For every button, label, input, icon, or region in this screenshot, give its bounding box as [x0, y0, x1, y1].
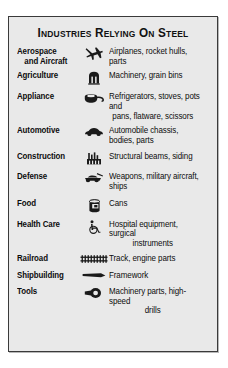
industry-name-line1: Tools — [17, 286, 37, 296]
list-item: Agriculture Machinery, grain bins — [17, 71, 211, 85]
can-icon — [79, 199, 109, 213]
industry-name: Tools — [17, 287, 74, 297]
industry-products-line2: instruments — [109, 239, 204, 249]
i-beam-icon — [79, 271, 109, 280]
industry-products: Machinery, grain bins — [109, 71, 204, 81]
airplane-icon — [79, 47, 109, 61]
industry-name-line1: Defense — [17, 171, 47, 181]
industry-name: Shipbuilding — [17, 271, 74, 281]
industry-products: Automobile chassis, bodies, parts — [109, 126, 204, 145]
list-item: Appliance Refrigerators, stoves, pots an… — [17, 92, 211, 121]
page-root: Industries Relying on Steel Aerospace an… — [0, 0, 228, 368]
industry-products-line1: Track, engine parts — [109, 253, 175, 263]
industry-name-line1: Automotive — [17, 125, 60, 135]
list-item: Defense Weapons, military aircraft, ship… — [17, 172, 211, 191]
industry-products-line1: Framework — [109, 270, 148, 280]
industry-name-line1: Agriculture — [17, 70, 58, 80]
list-item: Health Care Hospital equipment, surgical… — [17, 220, 211, 249]
industry-products-line1: Machinery parts, high-speed — [109, 286, 186, 306]
industry-products-line1: Refrigerators, stoves, pots and — [109, 91, 200, 111]
industry-name: Appliance — [17, 92, 74, 102]
industry-name: Automotive — [17, 126, 74, 136]
list-item: Construction — [17, 152, 211, 165]
industry-list: Aerospace and Aircraft Airplanes, rocket… — [9, 47, 217, 316]
page-title: Industries Relying on Steel — [21, 26, 205, 40]
list-item: Shipbuilding Framework — [17, 271, 211, 281]
car-icon — [79, 126, 109, 137]
industry-name-line1: Appliance — [17, 91, 54, 101]
industry-products: Framework — [109, 271, 204, 281]
industry-products-line1: Airplanes, rocket hulls, parts — [109, 46, 187, 66]
industry-products: Refrigerators, stoves, pots and pans, fl… — [109, 92, 204, 121]
industry-name: Defense — [17, 172, 74, 182]
grain-silo-icon — [79, 71, 109, 85]
industry-products-line1: Structural beams, siding — [109, 151, 193, 161]
industry-name-line1: Construction — [17, 151, 65, 161]
industry-products: Structural beams, siding — [109, 152, 204, 162]
industry-name-line2: and Aircraft — [17, 57, 74, 67]
drill-bit-icon — [79, 287, 109, 299]
industry-products: Hospital equipment, surgical instruments — [109, 220, 204, 249]
industry-products-line1: Weapons, military aircraft, ships — [109, 171, 199, 191]
industry-products: Machinery parts, high-speed drills — [109, 287, 204, 316]
industry-products-line1: Hospital equipment, surgical — [109, 219, 178, 239]
industry-name: Aerospace and Aircraft — [17, 47, 74, 66]
industry-name-line1: Aerospace — [17, 46, 57, 56]
industry-products-line2: pans, flatware, scissors — [109, 112, 204, 122]
list-item: Railroad — [17, 254, 211, 264]
industry-name: Construction — [17, 152, 74, 162]
industry-products: Weapons, military aircraft, ships — [109, 172, 204, 191]
industry-products-line1: Machinery, grain bins — [109, 70, 182, 80]
industry-name: Railroad — [17, 254, 74, 264]
industry-products: Airplanes, rocket hulls, parts — [109, 47, 204, 66]
industry-name-line1: Health Care — [17, 219, 60, 229]
factory-icon — [79, 152, 109, 165]
industry-products-line1: Automobile chassis, bodies, parts — [109, 125, 178, 145]
industry-name-line1: Railroad — [17, 253, 48, 263]
tank-icon — [79, 172, 109, 183]
list-item: Tools Machinery parts, high-speed drills — [17, 287, 211, 316]
industry-products: Track, engine parts — [109, 254, 204, 264]
industry-name-line1: Shipbuilding — [17, 270, 64, 280]
saucepan-icon — [79, 92, 109, 105]
railroad-track-icon — [79, 254, 109, 264]
industry-name: Agriculture — [17, 71, 74, 81]
industry-products: Cans — [109, 199, 204, 209]
industry-name-line1: Food — [17, 198, 36, 208]
industry-name: Food — [17, 199, 74, 209]
list-item: Automotive Automobile chassis, bodies, p… — [17, 126, 211, 145]
wheelchair-icon — [79, 220, 109, 234]
industry-products-line1: Cans — [109, 198, 127, 208]
list-item: Food Cans — [17, 199, 211, 213]
industry-name: Health Care — [17, 220, 74, 230]
list-item: Aerospace and Aircraft Airplanes, rocket… — [17, 47, 211, 66]
industries-table-panel: Industries Relying on Steel Aerospace an… — [8, 16, 218, 352]
industry-products-line2: drills — [109, 306, 204, 316]
